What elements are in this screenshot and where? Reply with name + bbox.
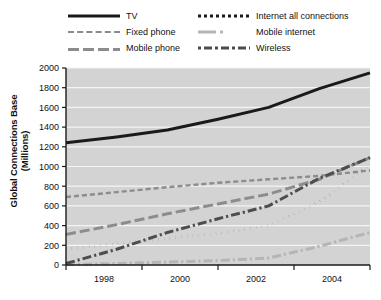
legend-label-wireless: Wireless [256, 43, 291, 53]
legend-swatch-wireless-icon [198, 42, 250, 54]
legend-label-mobile-internet: Mobile internet [256, 27, 315, 37]
legend-label-fixed-phone: Fixed phone [126, 27, 176, 37]
legend-swatch-fixed-phone-icon [68, 26, 120, 38]
legend-column-right: Internet all connections Mobile internet… [198, 8, 378, 56]
legend-item-tv[interactable]: TV [68, 8, 193, 24]
line-chart: Global Connections Base (Millions) 02004… [0, 56, 381, 300]
legend-item-internet-all-connections[interactable]: Internet all connections [198, 8, 378, 24]
x-tick-label: 1998 [94, 274, 114, 284]
legend-item-mobile-internet[interactable]: Mobile internet [198, 24, 378, 40]
plot-svg: 0200400600800100012001400160018002000199… [0, 56, 381, 300]
y-tick-label: 1200 [39, 142, 59, 152]
legend-item-mobile-phone[interactable]: Mobile phone [68, 40, 193, 56]
legend-swatch-tv-icon [68, 10, 120, 22]
y-tick-label: 800 [44, 182, 59, 192]
y-tick-label: 600 [44, 201, 59, 211]
chart-legend: TV Fixed phone Mobile phone Internet all… [0, 8, 381, 56]
legend-label-internet-all-connections: Internet all connections [256, 11, 349, 21]
legend-swatch-mobile-phone-icon [68, 42, 120, 54]
y-tick-label: 1800 [39, 83, 59, 93]
legend-swatch-mobile-internet-icon [198, 26, 250, 38]
y-tick-label: 400 [44, 221, 59, 231]
legend-column-left: TV Fixed phone Mobile phone [68, 8, 193, 56]
y-tick-label: 1600 [39, 103, 59, 113]
y-tick-label: 1400 [39, 122, 59, 132]
x-tick-label: 2002 [246, 274, 266, 284]
legend-item-wireless[interactable]: Wireless [198, 40, 378, 56]
x-tick-label: 2004 [322, 274, 342, 284]
legend-label-tv: TV [126, 11, 138, 21]
y-tick-label: 200 [44, 241, 59, 251]
legend-item-fixed-phone[interactable]: Fixed phone [68, 24, 193, 40]
y-tick-label: 0 [54, 260, 59, 270]
legend-label-mobile-phone: Mobile phone [126, 43, 180, 53]
y-tick-label: 1000 [39, 162, 59, 172]
x-tick-label: 2000 [170, 274, 190, 284]
y-tick-label: 2000 [39, 63, 59, 73]
legend-swatch-internet-all-connections-icon [198, 10, 250, 22]
